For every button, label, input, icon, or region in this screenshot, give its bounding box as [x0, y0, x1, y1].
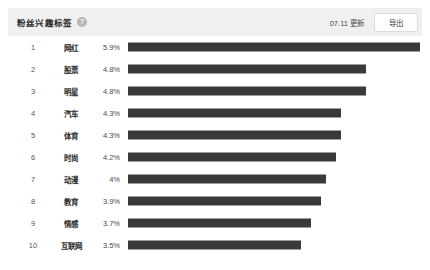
bar-row: 8教育3.9%	[0, 190, 430, 212]
category-label: 时尚	[52, 152, 90, 163]
header-right-group: 07.11 更新 导出	[330, 13, 418, 32]
percent-value: 4%	[94, 175, 120, 184]
bar-fill	[128, 241, 301, 250]
bar-track	[128, 109, 420, 118]
percent-value: 4.8%	[94, 65, 120, 74]
rank-number: 5	[26, 131, 40, 140]
bar-fill	[128, 131, 341, 140]
percent-value: 4.3%	[94, 109, 120, 118]
category-label: 明星	[52, 86, 90, 97]
bar-fill	[128, 153, 336, 162]
bar-row: 9情感3.7%	[0, 212, 430, 234]
percent-value: 4.2%	[94, 153, 120, 162]
bar-fill	[128, 65, 366, 74]
bar-fill	[128, 43, 420, 52]
fan-interest-tags-panel: 粉丝兴趣标签 ? 07.11 更新 导出 1网红5.9%2股票4.8%3明星4.…	[0, 0, 430, 270]
category-label: 体育	[52, 130, 90, 141]
bar-row: 2股票4.8%	[0, 58, 430, 80]
rank-number: 9	[26, 219, 40, 228]
bar-row: 3明星4.8%	[0, 80, 430, 102]
bar-row: 10互联网3.5%	[0, 234, 430, 256]
bar-track	[128, 153, 420, 162]
percent-value: 5.9%	[94, 43, 120, 52]
rank-number: 2	[26, 65, 40, 74]
bar-track	[128, 197, 420, 206]
bar-fill	[128, 219, 311, 228]
rank-number: 1	[26, 43, 40, 52]
page-title: 粉丝兴趣标签	[17, 16, 72, 28]
percent-value: 3.7%	[94, 219, 120, 228]
update-timestamp: 07.11 更新	[330, 17, 364, 28]
bar-track	[128, 87, 420, 96]
rank-number: 3	[26, 87, 40, 96]
header-left-group: 粉丝兴趣标签 ?	[17, 16, 87, 28]
percent-value: 3.5%	[94, 241, 120, 250]
category-label: 动漫	[52, 174, 90, 185]
rank-number: 7	[26, 175, 40, 184]
bar-row: 4汽车4.3%	[0, 102, 430, 124]
category-label: 网红	[52, 42, 90, 53]
bar-chart: 1网红5.9%2股票4.8%3明星4.8%4汽车4.3%5体育4.3%6时尚4.…	[0, 36, 430, 270]
category-label: 情感	[52, 218, 90, 229]
rank-number: 10	[26, 241, 40, 250]
bar-fill	[128, 109, 341, 118]
percent-value: 3.9%	[94, 197, 120, 206]
bar-fill	[128, 197, 321, 206]
bar-fill	[128, 87, 366, 96]
percent-value: 4.8%	[94, 87, 120, 96]
bar-row: 6时尚4.2%	[0, 146, 430, 168]
rank-number: 8	[26, 197, 40, 206]
rank-number: 4	[26, 109, 40, 118]
bar-track	[128, 131, 420, 140]
bar-track	[128, 175, 420, 184]
bar-row: 7动漫4%	[0, 168, 430, 190]
category-label: 教育	[52, 196, 90, 207]
percent-value: 4.3%	[94, 131, 120, 140]
bar-track	[128, 43, 420, 52]
bar-row: 5体育4.3%	[0, 124, 430, 146]
bar-track	[128, 65, 420, 74]
question-mark-circle-icon[interactable]: ?	[77, 17, 87, 27]
export-button[interactable]: 导出	[374, 13, 418, 32]
bar-row: 1网红5.9%	[0, 36, 430, 58]
panel-header: 粉丝兴趣标签 ? 07.11 更新 导出	[8, 8, 422, 36]
category-label: 互联网	[52, 240, 90, 251]
bar-fill	[128, 175, 326, 184]
rank-number: 6	[26, 153, 40, 162]
bar-track	[128, 241, 420, 250]
bar-track	[128, 219, 420, 228]
category-label: 汽车	[52, 108, 90, 119]
category-label: 股票	[52, 64, 90, 75]
